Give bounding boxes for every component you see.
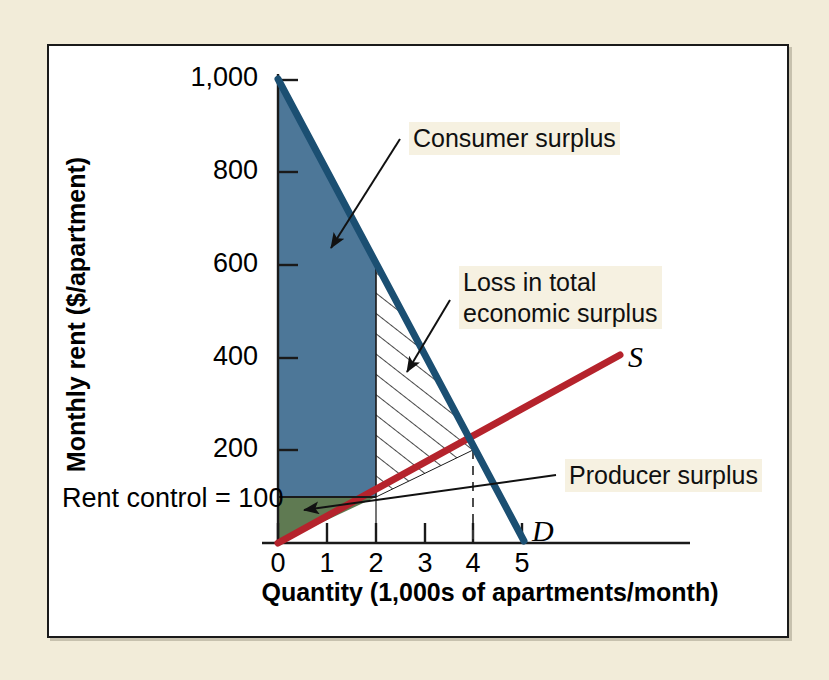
x-tick-label-5: 5: [502, 548, 542, 579]
x-tick-label-0: 0: [258, 548, 298, 579]
y-tick-label-600: 600: [148, 248, 258, 279]
y-axis-title: Monthly rent ($/apartment): [62, 155, 91, 475]
x-tick-label-2: 2: [356, 548, 396, 579]
annotation-consumer-surplus: Consumer surplus: [409, 122, 620, 155]
figure-root: 1,000 800 600 400 200 0 1 2 3 4 5 Rent c…: [0, 0, 829, 680]
x-axis-title: Quantity (1,000s of apartments/month): [230, 578, 750, 607]
x-tick-label-3: 3: [405, 548, 445, 579]
rent-control-label: Rent control = 100: [62, 483, 283, 514]
annotation-loss-line-2: economic surplus: [463, 299, 658, 327]
annotation-loss-line-1: Loss in total: [463, 268, 596, 296]
demand-curve-label: D: [532, 514, 554, 548]
annotation-producer-surplus: Producer surplus: [565, 459, 762, 492]
y-tick-label-800: 800: [148, 155, 258, 186]
x-tick-label-4: 4: [453, 548, 493, 579]
y-tick-label-400: 400: [148, 341, 258, 372]
supply-curve-label: S: [628, 340, 643, 374]
y-tick-label-1000: 1,000: [148, 62, 258, 93]
y-tick-label-200: 200: [148, 433, 258, 464]
annotation-loss-in-total-economic-surplus: Loss in total economic surplus: [459, 266, 662, 329]
x-tick-label-1: 1: [307, 548, 347, 579]
